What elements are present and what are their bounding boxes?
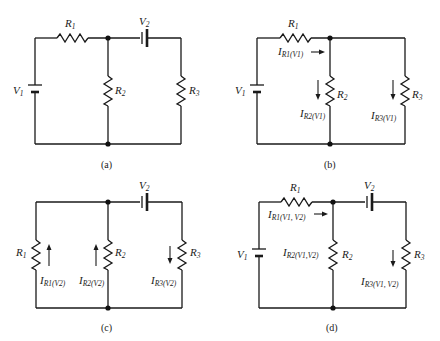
caption-d: (d) [326,322,338,334]
label-r3: R3 [413,248,425,262]
node-dot [105,35,110,40]
resistor-r1 [32,240,40,270]
label-r2: R2 [341,248,353,262]
label-r1: R1 [64,17,75,31]
node-dot [105,199,110,204]
label-r2: R2 [336,88,348,102]
arrowhead [391,261,396,267]
label-v1: V1 [13,84,23,98]
label-r2: R2 [114,246,126,260]
label-r3: R3 [188,84,200,98]
arrowhead [391,94,396,100]
caption-c: (c) [101,322,112,334]
arrowhead [316,94,321,100]
arrowhead [47,244,52,250]
current-label-r2: IR2(V1,V2) [282,246,319,260]
label-r3: R3 [411,88,423,102]
arrowhead [168,258,173,264]
resistor-r2 [104,76,112,106]
current-label-r2: IR2(V2) [78,274,105,288]
label-v2: V2 [139,179,150,193]
panel-c: V2 R1 R2 R3 IR1(V2) IR2(V2) IR3(V2) (c) [15,179,201,334]
current-label-r2: IR2(V1) [299,107,326,121]
current-label-r3: IR3(V2) [150,274,177,288]
label-v2: V2 [364,179,375,193]
panel-b: R1 V1 R2 R3 IR1(V1) IR2(V1) IR3(V1) (b) [235,17,423,171]
resistor-r3 [402,240,410,270]
label-r3: R3 [189,246,201,260]
resistor-r2 [104,240,112,270]
node-dot [330,199,335,204]
node-dot [105,141,110,146]
current-label-r1: IR1(V1, V2) [267,208,306,222]
node-dot [327,35,332,40]
arrowhead [319,50,325,55]
label-r1: R1 [289,181,300,195]
arrowhead [322,212,328,217]
current-label-r1: IR1(V2) [39,274,66,288]
circuit-figure: R1 V2 V1 R2 R3 (a) R1 V1 R2 R3 [0,0,440,341]
arrowhead [94,244,99,250]
resistor-r3 [178,240,186,270]
current-label-r3: IR3(V1) [370,109,397,123]
node-dot [105,305,110,310]
label-v1: V1 [235,84,245,98]
node-dot [330,305,335,310]
label-v2: V2 [139,15,150,29]
resistor-r1 [280,34,311,42]
current-label-r3: IR3(V1, V2) [360,275,399,289]
resistor-r1 [281,198,312,206]
label-v1: V1 [237,248,247,262]
panel-d: R1 V2 V1 R2 R3 IR1(V1, V2) IR2(V1,V2) IR… [237,179,425,334]
caption-b: (b) [324,159,336,171]
label-r2: R2 [114,84,126,98]
node-dot [327,141,332,146]
resistor-r2 [326,76,334,106]
resistor-r3 [177,76,185,106]
resistor-r3 [401,76,409,106]
label-r1: R1 [15,246,26,260]
resistor-r1 [57,34,88,42]
panel-a: R1 V2 V1 R2 R3 (a) [13,15,200,171]
resistor-r2 [329,240,337,270]
caption-a: (a) [101,159,112,171]
current-label-r1: IR1(V1) [277,45,304,59]
label-r1: R1 [287,17,298,31]
